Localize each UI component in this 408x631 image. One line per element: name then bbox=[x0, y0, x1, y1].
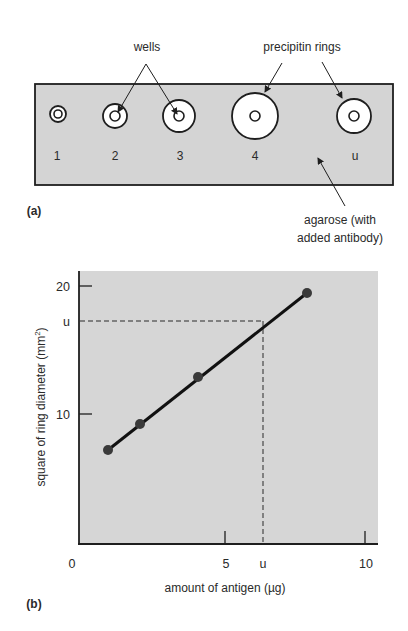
x-tick-label-10: 10 bbox=[359, 557, 373, 571]
y-axis-title: square of ring diameter (mm2) bbox=[33, 327, 48, 486]
well-label-u: u bbox=[352, 149, 359, 163]
well-label-3: 3 bbox=[177, 149, 184, 163]
well-label-2: 2 bbox=[112, 149, 119, 163]
well-label-1: 1 bbox=[54, 149, 61, 163]
well-4-hole bbox=[250, 111, 260, 121]
y-tick-label-u: u bbox=[63, 315, 70, 329]
data-point-3 bbox=[193, 372, 203, 382]
agarose-callout-line-1: agarose (with bbox=[304, 213, 376, 227]
well-3-ring bbox=[163, 100, 195, 132]
data-point-4 bbox=[302, 288, 312, 298]
plot-area bbox=[79, 271, 378, 544]
y-axis-title-main: square of ring diameter (mm bbox=[34, 336, 48, 487]
single-radial-immunodiffusion-figure: 1 2 3 4 u wells precipitin rings agarose… bbox=[0, 0, 408, 631]
x-tick-label-0: 0 bbox=[69, 557, 76, 571]
panel-label-a: (a) bbox=[27, 204, 42, 218]
agarose-callout-line-2: added antibody) bbox=[297, 231, 383, 245]
panel-label-b: (b) bbox=[26, 597, 41, 611]
x-tick-label-u: u bbox=[260, 557, 267, 571]
y-tick-label-10: 10 bbox=[56, 408, 70, 422]
panel-b-chart: 20 u 10 0 5 u 10 amount of antigen (µg) … bbox=[26, 271, 378, 611]
well-2-hole bbox=[110, 111, 120, 121]
y-axis-title-close: ) bbox=[34, 327, 48, 331]
well-2-ring bbox=[103, 104, 127, 128]
agarose-gel-slab bbox=[35, 84, 393, 185]
x-tick-label-5: 5 bbox=[223, 557, 230, 571]
well-1-ring bbox=[50, 106, 66, 122]
well-label-4: 4 bbox=[252, 149, 259, 163]
data-point-2 bbox=[135, 419, 145, 429]
well-4-ring bbox=[232, 93, 278, 139]
well-1-hole bbox=[54, 110, 62, 118]
x-axis-title: amount of antigen (µg) bbox=[165, 581, 286, 595]
precipitin-rings-callout-label: precipitin rings bbox=[263, 40, 340, 54]
wells-callout-label: wells bbox=[133, 40, 161, 54]
y-tick-label-20: 20 bbox=[56, 280, 70, 294]
well-u-ring bbox=[337, 99, 371, 133]
panel-a: 1 2 3 4 u wells precipitin rings agarose… bbox=[27, 40, 393, 245]
well-u-hole bbox=[349, 111, 359, 121]
data-point-1 bbox=[103, 445, 113, 455]
